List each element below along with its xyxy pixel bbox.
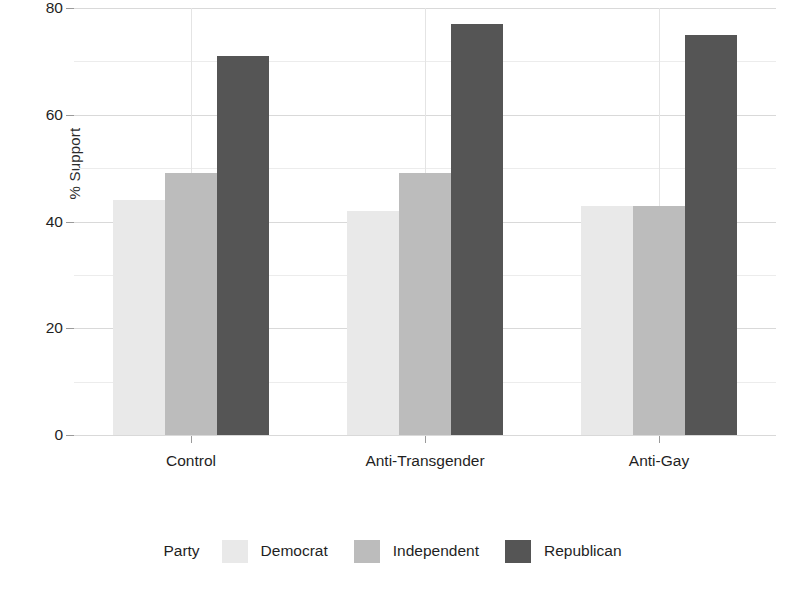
bar-control-democrat bbox=[113, 200, 165, 435]
y-tick-mark bbox=[66, 115, 74, 116]
legend-item-republican[interactable]: Republican bbox=[505, 540, 622, 563]
x-tick-mark bbox=[659, 436, 660, 443]
bar-control-independent bbox=[165, 173, 217, 435]
y-tick-label: 60 bbox=[19, 107, 63, 123]
bar-anti-gay-independent bbox=[633, 206, 685, 436]
legend-swatch-democrat bbox=[222, 540, 248, 563]
legend-swatch-republican bbox=[505, 540, 531, 563]
y-tick-label: 80 bbox=[19, 0, 63, 16]
bar-anti-transgender-independent bbox=[399, 173, 451, 435]
y-tick-mark bbox=[66, 435, 74, 436]
bar-chart-figure: % Support 020406080 ControlAnti-Transgen… bbox=[0, 0, 785, 589]
legend-item-democrat[interactable]: Democrat bbox=[222, 540, 328, 563]
y-tick-mark bbox=[66, 8, 74, 9]
bar-anti-gay-republican bbox=[685, 35, 737, 435]
bar-anti-transgender-republican bbox=[451, 24, 503, 435]
legend-label: Republican bbox=[544, 542, 622, 560]
y-tick-mark bbox=[66, 328, 74, 329]
x-tick-mark bbox=[191, 436, 192, 443]
y-tick-label: 20 bbox=[19, 320, 63, 336]
x-tick-label: Anti-Gay bbox=[629, 452, 689, 470]
x-tick-label: Anti-Transgender bbox=[365, 452, 484, 470]
legend: Party DemocratIndependentRepublican bbox=[0, 533, 785, 569]
x-tick-label: Control bbox=[166, 452, 216, 470]
legend-label: Democrat bbox=[261, 542, 328, 560]
bar-anti-transgender-democrat bbox=[347, 211, 399, 435]
bar-control-republican bbox=[217, 56, 269, 435]
legend-label: Independent bbox=[393, 542, 479, 560]
legend-item-independent[interactable]: Independent bbox=[354, 540, 479, 563]
x-tick-mark bbox=[425, 436, 426, 443]
legend-title: Party bbox=[163, 542, 199, 560]
bar-anti-gay-democrat bbox=[581, 206, 633, 436]
y-tick-label: 40 bbox=[19, 214, 63, 230]
y-tick-label: 0 bbox=[19, 427, 63, 443]
plot-area bbox=[74, 8, 776, 435]
legend-items: DemocratIndependentRepublican bbox=[222, 540, 622, 563]
y-tick-mark bbox=[66, 222, 74, 223]
legend-swatch-independent bbox=[354, 540, 380, 563]
